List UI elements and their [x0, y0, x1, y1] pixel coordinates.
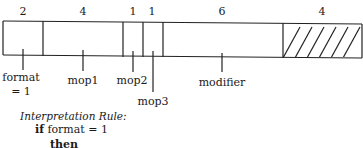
keyword-then: then: [50, 138, 78, 148]
label-modifier: modifier: [199, 76, 246, 89]
label-mop2: mop2: [116, 74, 147, 87]
rule-then-line: then: [50, 138, 78, 148]
label-mop1: mop1: [67, 74, 98, 87]
interpretation-rule-title: Interpretation Rule:: [20, 110, 127, 122]
hatch-pattern: [283, 27, 360, 58]
label-mop3: mop3: [137, 95, 168, 108]
rule-condition: format = 1: [47, 123, 108, 136]
label-format-value: = 1: [11, 85, 31, 98]
label-format: format: [2, 71, 39, 84]
keyword-if: if: [35, 123, 44, 136]
rule-if-line: if format = 1: [35, 123, 108, 136]
